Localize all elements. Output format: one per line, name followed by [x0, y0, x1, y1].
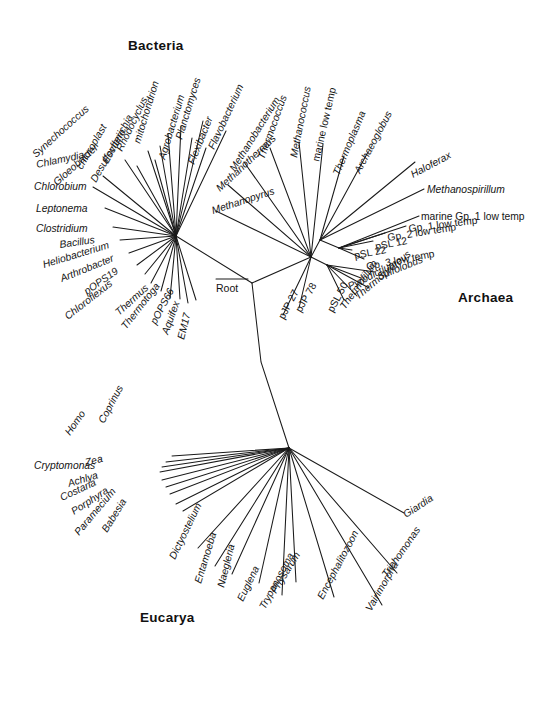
- archaea-internal-crown: [320, 240, 339, 248]
- branch-root-to-archaea: [252, 257, 311, 283]
- taxon-label-coprinus: Coprinus: [96, 383, 125, 425]
- taxon-label-giardia: Giardia: [401, 492, 435, 519]
- domain-label-archaea: Archaea: [458, 290, 514, 305]
- branch-synechococcus: [125, 160, 176, 236]
- root-label: Root: [216, 282, 238, 294]
- branch-giardia: [289, 448, 404, 513]
- backbone-branches: [176, 236, 311, 448]
- taxon-label-methanococcus: Methanococcus: [288, 85, 313, 158]
- branch-vairimorpha: [289, 448, 382, 605]
- eucarya-clade: CoprinusHomoZeaCryptomonasAchlyaCostaria…: [34, 383, 435, 613]
- taxon-label-leptonema: Leptonema: [36, 203, 88, 214]
- taxon-label-methanospirillum: Methanospirillum: [427, 184, 505, 195]
- taxon-label-entamoeba: Entamoeba: [192, 531, 218, 585]
- branch-leptonema: [105, 208, 176, 236]
- taxon-label-encephalitozoon: Encephalitozoon: [315, 528, 361, 601]
- taxon-label-cryptomonas: Cryptomonas: [34, 460, 95, 471]
- tree-canvas: ChlorobiumChlamydiaSynechococcusGloeobac…: [0, 0, 552, 726]
- taxon-label-em17: EM17: [175, 310, 192, 340]
- taxon-label-euglena: Euglena: [235, 564, 262, 603]
- archaea-internal-crenarchaeota: [311, 257, 327, 265]
- phylogenetic-tree-figure: ChlorobiumChlamydiaSynechococcusGloeobac…: [0, 0, 552, 726]
- taxon-label-clostridium: Clostridium: [36, 223, 88, 234]
- domain-label-bacteria: Bacteria: [128, 38, 184, 53]
- archaea-clade: MethanopyrusMethanothermusMethanobacteri…: [210, 85, 525, 320]
- domain-label-eucarya: Eucarya: [140, 610, 195, 625]
- taxon-label-haloferax: Haloferax: [409, 149, 454, 180]
- taxon-label-flavobacterium: Flavobacterium: [206, 82, 246, 151]
- branch-chlorobium: [93, 187, 176, 236]
- branch-methanobacterium: [244, 162, 311, 257]
- taxon-label-homo: Homo: [63, 408, 88, 437]
- taxon-label-marine-low-temp: marine low temp: [310, 86, 338, 162]
- taxon-label-naegleria: Naegleria: [215, 543, 236, 589]
- branch-root-to-bacteria: [176, 236, 252, 283]
